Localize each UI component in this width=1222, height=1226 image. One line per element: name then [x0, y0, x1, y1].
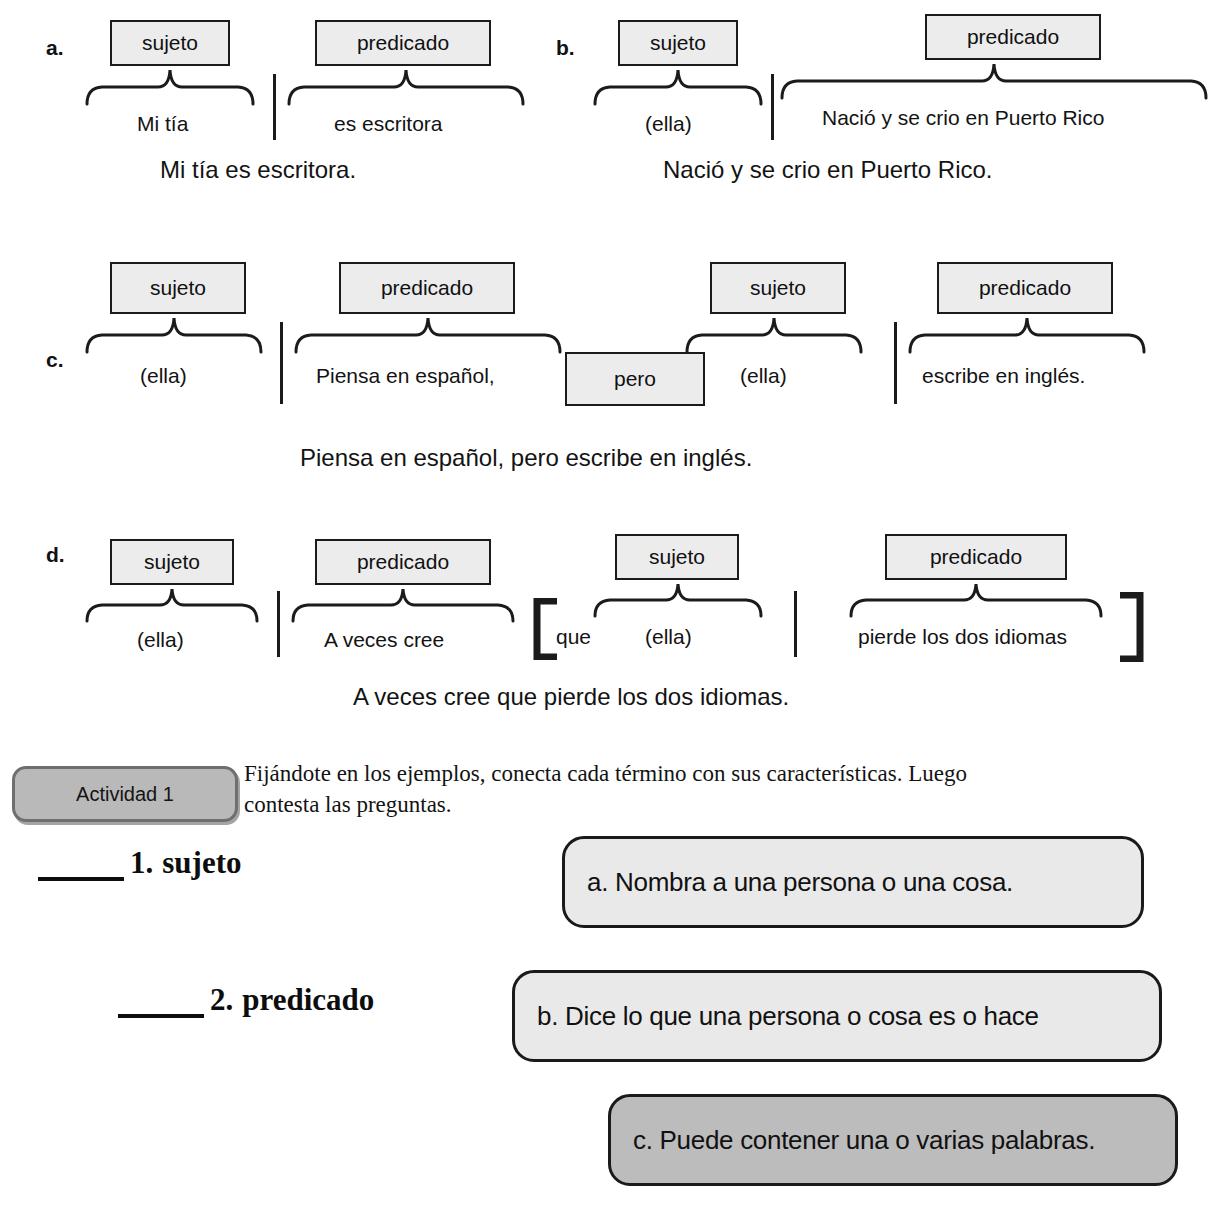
example-b-predicate-phrase: Nació y se crio en Puerto Rico [822, 106, 1104, 130]
example-d-close-bracket [1120, 592, 1148, 662]
example-d-subject-brace-1 [84, 585, 260, 623]
example-c-predicate-box-2: predicado [937, 262, 1113, 314]
example-c-predicate-phrase-1: Piensa en español, [316, 364, 495, 388]
example-c-predicate-brace-2 [907, 314, 1147, 354]
example-a-divider [273, 74, 276, 140]
example-b-divider [771, 74, 774, 140]
example-letter-a: a. [46, 36, 64, 60]
example-a-predicate-brace [286, 66, 526, 106]
example-c-divider-2 [894, 322, 897, 404]
example-b-predicate-brace [779, 60, 1209, 100]
example-d-divider-1 [277, 591, 280, 657]
example-d-conjunction: que [556, 625, 591, 649]
example-c-subject-brace-2 [684, 314, 864, 354]
match-item-1-term: sujeto [162, 845, 241, 881]
match-item-2[interactable]: 2. predicado [118, 982, 374, 1018]
example-d-subject-box-2: sujeto [615, 534, 739, 580]
example-d-predicate-brace-2 [848, 580, 1104, 618]
actividad-badge[interactable]: Actividad 1 [12, 766, 238, 822]
example-letter-b: b. [556, 36, 575, 60]
example-b-full-sentence: Nació y se crio en Puerto Rico. [663, 156, 992, 184]
example-c-subject-brace-1 [84, 314, 264, 354]
option-box-c[interactable]: c. Puede contener una o varias palabras. [608, 1094, 1178, 1186]
example-d-predicate-box-1: predicado [315, 539, 491, 585]
match-item-1-blank[interactable] [38, 851, 124, 881]
example-c-subject-box-1: sujeto [110, 262, 246, 314]
match-item-2-number: 2. [210, 982, 233, 1018]
example-d-subject-box-1: sujeto [110, 539, 234, 585]
example-d-divider-2 [794, 591, 797, 657]
example-d-predicate-phrase-1: A veces cree [324, 628, 444, 652]
match-item-1[interactable]: 1. sujeto [38, 845, 241, 881]
instructions-line-1: Fijándote en los ejemplos, conecta cada … [244, 758, 1184, 789]
example-d-predicate-phrase-2: pierde los dos idiomas [858, 625, 1067, 649]
example-a-predicate-box: predicado [315, 20, 491, 66]
example-c-subject-box-2: sujeto [710, 262, 846, 314]
match-item-2-term: predicado [242, 982, 374, 1018]
example-a-full-sentence: Mi tía es escritora. [160, 156, 356, 184]
example-c-subject-phrase-1: (ella) [140, 364, 187, 388]
example-c-predicate-phrase-2: escribe en inglés. [922, 364, 1085, 388]
example-d-subject-phrase-2: (ella) [645, 625, 692, 649]
example-d-predicate-brace-1 [290, 585, 516, 623]
example-c-divider-1 [280, 322, 283, 404]
example-b-subject-brace [592, 66, 764, 106]
example-c-predicate-brace-1 [293, 314, 563, 354]
example-c-full-sentence: Piensa en español, pero escribe en inglé… [300, 444, 752, 472]
example-c-predicate-box-1: predicado [339, 262, 515, 314]
example-d-full-sentence: A veces cree que pierde los dos idiomas. [353, 683, 789, 711]
example-b-subject-box: sujeto [618, 20, 738, 66]
example-a-subject-box: sujeto [110, 20, 230, 66]
example-d-subject-phrase-1: (ella) [137, 628, 184, 652]
match-item-2-blank[interactable] [118, 988, 204, 1018]
example-c-subject-phrase-2: (ella) [740, 364, 787, 388]
option-box-b[interactable]: b. Dice lo que una persona o cosa es o h… [512, 970, 1162, 1062]
example-letter-c: c. [46, 348, 64, 372]
match-item-1-number: 1. [130, 845, 153, 881]
example-letter-d: d. [46, 543, 65, 567]
activity-instructions: Fijándote en los ejemplos, conecta cada … [244, 758, 1184, 820]
instructions-line-2: contesta las preguntas. [244, 789, 1184, 820]
example-b-predicate-box: predicado [925, 14, 1101, 60]
example-b-subject-phrase: (ella) [645, 112, 692, 136]
example-d-open-bracket [529, 598, 557, 660]
example-a-predicate-phrase: es escritora [334, 112, 443, 136]
example-d-subject-brace-2 [592, 580, 764, 618]
example-a-subject-brace [84, 66, 256, 106]
example-a-subject-phrase: Mi tía [137, 112, 188, 136]
example-c-connector-box: pero [565, 352, 705, 406]
option-box-a[interactable]: a. Nombra a una persona o una cosa. [562, 836, 1144, 928]
example-d-predicate-box-2: predicado [885, 534, 1067, 580]
